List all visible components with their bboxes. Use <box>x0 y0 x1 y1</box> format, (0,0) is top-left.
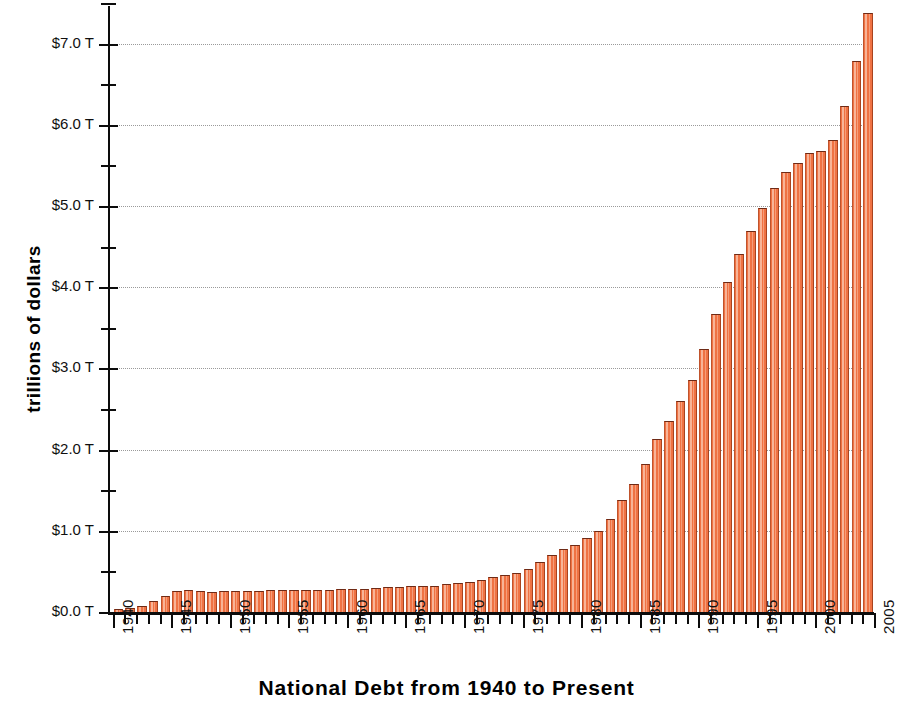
bar <box>196 591 206 612</box>
bar-highlight <box>397 588 399 612</box>
bar <box>207 592 217 612</box>
bar-highlight <box>748 232 750 612</box>
bar-highlight <box>233 592 235 612</box>
bar-highlight <box>584 539 586 612</box>
x-axis-minor-tick <box>780 613 782 624</box>
x-axis-minor-tick <box>558 613 560 624</box>
bar-highlight <box>572 546 574 612</box>
bar <box>711 314 721 612</box>
bar-highlight-secondary <box>330 591 331 612</box>
x-axis-major-tick <box>698 613 700 628</box>
y-axis-tick <box>99 287 118 289</box>
bar-highlight-secondary <box>810 154 811 612</box>
bar-highlight <box>678 402 680 612</box>
bar-highlight-secondary <box>763 209 764 612</box>
bar <box>278 590 288 612</box>
bar-highlight-secondary <box>400 588 401 612</box>
bar <box>770 188 780 612</box>
bar-highlight <box>373 589 375 612</box>
x-axis-minor-tick <box>616 613 618 624</box>
x-axis-minor-tick <box>265 613 267 624</box>
bar-highlight-secondary <box>271 591 272 612</box>
y-axis-tick <box>99 531 118 533</box>
y-axis-minor-tick <box>101 328 116 330</box>
bar-highlight <box>315 591 317 612</box>
bar-highlight <box>350 590 352 612</box>
bar-highlight <box>807 154 809 612</box>
bar-highlight <box>221 592 223 612</box>
plot-area <box>110 8 872 612</box>
bar <box>852 61 862 612</box>
bar <box>325 590 335 612</box>
bar-highlight <box>338 590 340 612</box>
bar-highlight-secondary <box>154 602 155 612</box>
bar-highlight-secondary <box>728 283 729 612</box>
bar-highlight <box>772 189 774 612</box>
bar <box>570 545 580 612</box>
bar <box>430 586 440 612</box>
y-axis-minor-tick <box>101 409 116 411</box>
bar <box>816 151 826 612</box>
bar-highlight-secondary <box>717 315 718 612</box>
bar <box>383 587 393 612</box>
x-axis-major-tick <box>171 613 173 628</box>
x-axis-tick-label: 1970 <box>470 599 487 634</box>
bar-highlight-secondary <box>389 588 390 612</box>
bar-highlight-secondary <box>787 173 788 612</box>
bar-highlight <box>490 578 492 612</box>
x-axis-minor-tick <box>382 613 384 624</box>
x-axis-minor-tick <box>851 613 853 624</box>
bar <box>629 484 639 612</box>
x-axis-tick-label: 1950 <box>236 599 253 634</box>
y-axis-tick-label: $4.0 T <box>12 277 94 294</box>
x-axis-minor-tick <box>687 613 689 624</box>
bar-highlight <box>608 520 610 612</box>
chart-title: National Debt from 1940 to Present <box>0 676 893 700</box>
y-axis-minor-tick <box>101 571 116 573</box>
x-axis-major-tick <box>523 613 525 628</box>
bar <box>699 349 709 612</box>
bar <box>840 106 850 612</box>
x-axis-minor-tick <box>675 613 677 624</box>
y-axis-tick <box>99 450 118 452</box>
y-axis-minor-tick <box>101 165 116 167</box>
bar <box>828 140 838 612</box>
bar <box>746 231 756 612</box>
bar-highlight <box>760 209 762 612</box>
bar-highlight <box>327 591 329 612</box>
x-axis-major-tick <box>815 613 817 628</box>
gridline <box>110 206 872 207</box>
bar <box>617 500 627 612</box>
y-axis-minor-tick <box>101 84 116 86</box>
x-axis-tick-label: 1975 <box>529 599 546 634</box>
bar-highlight <box>280 591 282 612</box>
bar <box>512 573 522 612</box>
x-axis-minor-tick <box>370 613 372 624</box>
x-axis-major-tick <box>464 613 466 628</box>
gridline <box>110 44 872 45</box>
bar-highlight <box>666 422 668 612</box>
bar-highlight-secondary <box>506 576 507 612</box>
bar-highlight <box>163 597 165 612</box>
bar-highlight-secondary <box>225 592 226 612</box>
x-axis-minor-tick <box>277 613 279 624</box>
bar <box>500 575 510 612</box>
x-axis-minor-tick <box>792 613 794 624</box>
bar-highlight-secondary <box>623 501 624 612</box>
x-axis-minor-tick <box>605 613 607 624</box>
x-axis-minor-tick <box>218 613 220 624</box>
y-axis-tick-label: $1.0 T <box>12 521 94 538</box>
y-axis-tick-label: $5.0 T <box>12 196 94 213</box>
bar-highlight <box>795 164 797 612</box>
bar <box>266 590 276 612</box>
y-axis-tick-label: $2.0 T <box>12 440 94 457</box>
bar-highlight <box>455 584 457 612</box>
bar <box>161 596 171 612</box>
bar-highlight-secondary <box>869 14 870 612</box>
x-axis-major-tick <box>874 613 876 628</box>
bar <box>676 401 686 612</box>
bar-highlight <box>268 591 270 612</box>
x-axis-minor-tick <box>253 613 255 624</box>
x-axis-minor-tick <box>804 613 806 624</box>
bar-highlight-secondary <box>342 590 343 612</box>
